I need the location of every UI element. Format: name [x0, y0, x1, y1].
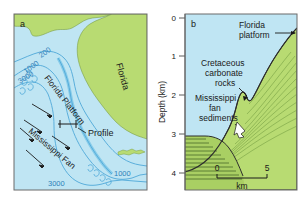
svg-text:Florida: Florida: [239, 20, 265, 30]
cretaceous-line2: carbonate: [205, 68, 243, 78]
y-tick-4: 4: [172, 169, 177, 178]
panel-b-cross-section: 0 1 2 3 4 Depth (km) Florida platform: [153, 0, 307, 204]
panel-b-label: b: [191, 19, 196, 29]
svg-text:platform: platform: [239, 30, 270, 40]
y-tick-2: 2: [172, 91, 177, 100]
cretaceous-line1: Cretaceous: [201, 58, 244, 68]
mississippi-fan-line1: Mississippi: [195, 93, 236, 103]
y-tick-1: 1: [172, 52, 177, 61]
svg-text:sediments: sediments: [199, 113, 238, 123]
florida-platform-line2: platform: [239, 30, 270, 40]
figure-container: Florida Florida Platform Mississippi Fan…: [0, 0, 307, 204]
svg-text:rocks: rocks: [215, 78, 235, 88]
scale-bar-end: 5: [265, 163, 270, 173]
scale-bar-start: 0: [215, 163, 220, 173]
svg-text:fan: fan: [209, 103, 221, 113]
panel-a-label: a: [20, 19, 25, 29]
svg-text:carbonate: carbonate: [205, 68, 243, 78]
contour-label-3000-lower: 3000: [48, 179, 65, 188]
y-tick-0: 0: [172, 14, 177, 23]
svg-text:Mississippi: Mississippi: [195, 93, 236, 103]
y-axis-title: Depth (km): [157, 81, 167, 123]
florida-platform-line1: Florida: [239, 20, 265, 30]
map-svg: Florida Florida Platform Mississippi Fan…: [0, 0, 154, 204]
panel-a-map: Florida Florida Platform Mississippi Fan…: [0, 0, 154, 204]
contour-label-1000-lower: 1000: [114, 169, 131, 178]
y-tick-3: 3: [172, 130, 177, 139]
cretaceous-line3: rocks: [215, 78, 235, 88]
mississippi-fan-line3: sediments: [199, 113, 238, 123]
depth-axis: 0 1 2 3 4 Depth (km): [157, 14, 185, 190]
mississippi-fan-line2: fan: [209, 103, 221, 113]
map-label-profile: Profile: [88, 128, 114, 138]
svg-text:Cretaceous: Cretaceous: [201, 58, 244, 68]
cross-section-svg: 0 1 2 3 4 Depth (km) Florida platform: [153, 0, 307, 204]
